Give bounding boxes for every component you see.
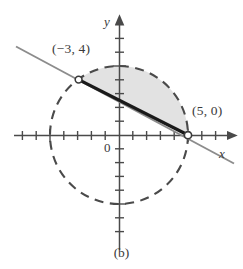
point-marker-b (184, 132, 191, 139)
coordinate-plane-graph (0, 0, 243, 269)
figure-caption: (b) (0, 245, 243, 261)
figure-container: (−3, 4) (5, 0) y x 0 (b) (0, 0, 243, 269)
point-label-a: (−3, 4) (52, 41, 90, 57)
point-label-b: (5, 0) (192, 103, 222, 119)
y-axis (113, 24, 126, 250)
origin-label: 0 (104, 140, 111, 156)
point-marker-a (75, 76, 82, 83)
y-axis-label: y (104, 14, 110, 30)
x-axis-label: x (219, 146, 225, 162)
x-axis (14, 129, 228, 142)
